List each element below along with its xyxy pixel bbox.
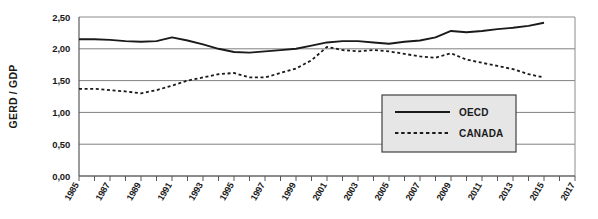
x-tick-label: 1987	[94, 181, 112, 203]
gerd-gdp-line-chart: 0,000,501,001,502,002,50 198519871989199…	[0, 0, 598, 219]
legend-box	[382, 95, 516, 152]
y-tick-label: 1,50	[52, 75, 70, 86]
y-axis-tick-labels: 0,000,501,001,502,002,50	[52, 12, 70, 182]
x-tick-label: 1989	[125, 181, 143, 203]
y-axis-title-label: GERD / GDP	[7, 65, 19, 129]
x-tick-label: 2017	[559, 181, 577, 203]
legend-label-canada: CANADA	[459, 128, 504, 139]
y-tick-label: 2,00	[52, 43, 70, 54]
x-tick-label: 1991	[156, 181, 174, 203]
x-tick-label: 1993	[187, 181, 205, 203]
x-tick-label: 2011	[466, 181, 484, 202]
x-axis-tick-labels: 1985198719891991199319951997199920012003…	[63, 181, 577, 203]
x-tick-label: 2005	[373, 181, 391, 203]
y-tick-label: 0,00	[52, 171, 70, 182]
x-tick-label: 2007	[404, 181, 422, 203]
legend: OECDCANADA	[382, 95, 516, 152]
y-tick-label: 1,00	[52, 107, 70, 118]
x-tick-label: 2001	[311, 181, 329, 203]
y-axis-title: GERD / GDP	[7, 65, 19, 129]
legend-label-oecd: OECD	[459, 107, 489, 118]
x-tick-label: 2015	[528, 181, 546, 203]
y-tick-label: 2,50	[52, 12, 70, 23]
x-tick-label: 2013	[497, 181, 515, 203]
x-tick-label: 1997	[249, 181, 267, 203]
x-axis-ticks	[79, 176, 575, 181]
x-tick-label: 1995	[218, 181, 236, 203]
x-tick-label: 2009	[435, 181, 453, 203]
x-tick-label: 1985	[63, 181, 81, 203]
x-tick-label: 1999	[280, 181, 298, 203]
y-tick-label: 0,50	[52, 139, 70, 150]
x-tick-label: 2003	[342, 181, 360, 203]
chart-container: 0,000,501,001,502,002,50 198519871989199…	[0, 0, 598, 219]
